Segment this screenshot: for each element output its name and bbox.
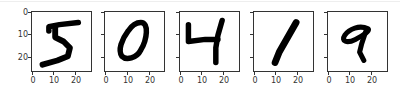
ytick [250, 12, 253, 13]
xtick-label: 10 [123, 76, 133, 85]
xtick-label: 0 [326, 76, 331, 85]
ytick [176, 12, 179, 13]
ytick [176, 34, 179, 35]
xtick-label: 10 [197, 76, 207, 85]
ytick [101, 57, 104, 58]
xtick-label: 20 [219, 76, 229, 85]
ytick [324, 34, 327, 35]
xtick-label: 20 [145, 76, 155, 85]
xtick-label: 0 [178, 76, 183, 85]
digit-image-5 [32, 12, 91, 71]
digit-image-0 [105, 12, 164, 71]
ytick-label-0: 0 [8, 8, 28, 17]
ytick [324, 57, 327, 58]
digit-image-9 [328, 12, 387, 71]
digit-panel-9 [327, 11, 388, 72]
figure-top-border [0, 1, 400, 2]
xtick-label: 20 [71, 76, 81, 85]
digit-panel-4 [179, 11, 240, 72]
xtick-label: 0 [30, 76, 35, 85]
ytick [176, 57, 179, 58]
xtick-label: 20 [293, 76, 303, 85]
xtick-label: 10 [49, 76, 59, 85]
ytick [250, 34, 253, 35]
ytick [250, 57, 253, 58]
xtick-label: 0 [103, 76, 108, 85]
xtick-label: 10 [345, 76, 355, 85]
xtick-label: 0 [252, 76, 257, 85]
ytick-label-20: 20 [8, 53, 28, 62]
digit-panel-1 [253, 11, 314, 72]
digit-panel-5 [31, 11, 92, 72]
digit-image-4 [180, 12, 239, 71]
digit-panel-0 [104, 11, 165, 72]
digit-image-1 [254, 12, 313, 71]
ytick [101, 34, 104, 35]
ytick [324, 12, 327, 13]
xtick-label: 20 [367, 76, 377, 85]
ytick-label-10: 10 [8, 30, 28, 39]
xtick-label: 10 [271, 76, 281, 85]
ytick [101, 12, 104, 13]
